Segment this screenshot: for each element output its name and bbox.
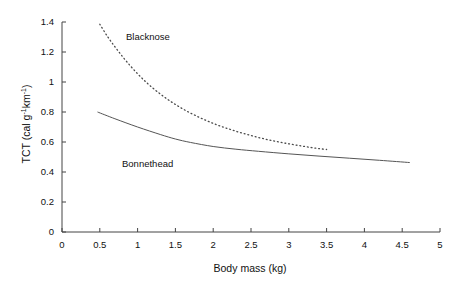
y-tick-label: 1 [14,76,54,87]
series-path-blacknose [100,24,327,149]
y-tick-label: 0.6 [14,136,54,147]
y-tick-label: 0 [14,226,54,237]
x-tick-label: 1 [118,239,158,250]
x-tick-label: 2 [193,239,233,250]
x-tick-label: 3.5 [307,239,347,250]
series-label-blacknose: Blacknose [126,31,170,42]
y-tick-label: 1.4 [14,16,54,27]
x-tick-label: 4.5 [382,239,422,250]
y-tick-label: 0.8 [14,106,54,117]
x-axis-title: Body mass (kg) [170,262,330,274]
series-path-bonnethead [98,112,410,163]
chart-figure: TCT (cal g-1km-1) Body mass (kg) Blackno… [0,0,461,286]
x-tick-label: 0 [42,239,82,250]
y-tick-label: 1.2 [14,46,54,57]
x-tick-label: 4 [344,239,384,250]
x-tick-label: 5 [420,239,460,250]
series-label-bonnethead: Bonnethead [122,158,173,169]
x-tick-label: 1.5 [155,239,195,250]
y-tick-label: 0.2 [14,196,54,207]
x-tick-label: 0.5 [80,239,120,250]
x-tick-label: 3 [269,239,309,250]
y-tick-label: 0.4 [14,166,54,177]
x-tick-label: 2.5 [231,239,271,250]
